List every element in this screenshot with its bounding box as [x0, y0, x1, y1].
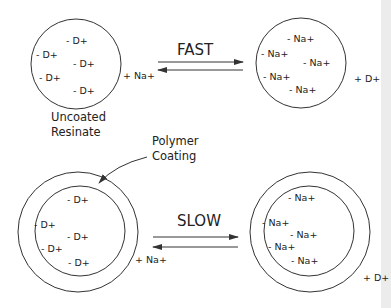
coating-label-polymer: Polymer — [152, 134, 199, 148]
uncoated-resinate-particle: - D+ - D+ - D+ - D+ - D+ — [31, 19, 121, 109]
ion-label: - D+ — [41, 243, 63, 254]
coated-resinate-particle: - D+ - D+ - D+ - D+ - D+ — [18, 172, 138, 292]
ion-label: - D+ — [67, 194, 89, 205]
ion-label: - Na+ — [263, 71, 290, 82]
rate-label-slow: SLOW — [177, 212, 221, 230]
ion-label: - Na+ — [288, 192, 315, 203]
ion-label: - D+ — [34, 219, 56, 230]
rate-label-fast: FAST — [177, 41, 214, 59]
ion-label: - D+ — [73, 58, 95, 69]
ion-label: - Na+ — [261, 48, 288, 59]
ion-label: - D+ — [68, 257, 90, 268]
caption-resinate: Resinate — [51, 125, 101, 139]
ion-label: - Na+ — [287, 33, 314, 44]
exchanged-resinate-particle: - Na+ - Na+ - Na+ - Na+ - Na+ — [256, 18, 346, 108]
ion-label: - Na+ — [268, 241, 295, 252]
external-ion-label: + D+ — [354, 73, 380, 84]
coating-label-coating: Coating — [152, 149, 196, 163]
ion-label: - D+ — [66, 35, 88, 46]
ion-label: - Na+ — [290, 229, 317, 240]
ion-label: - Na+ — [289, 84, 316, 95]
ion-label: - Na+ — [262, 217, 289, 228]
ion-label: - Na+ — [291, 255, 318, 266]
ion-label: - D+ — [36, 49, 58, 60]
external-ion-label: + Na+ — [123, 70, 155, 81]
external-ion-label: + Na+ — [135, 254, 167, 265]
ion-label: - Na+ — [303, 57, 330, 68]
caption-uncoated: Uncoated — [51, 110, 106, 124]
external-ion-label: + D+ — [363, 272, 389, 283]
ion-label: - D+ — [39, 72, 61, 83]
ion-label: - D+ — [73, 85, 95, 96]
ion-label: - D+ — [67, 231, 89, 242]
coated-exchanged-particle: - Na+ - Na+ - Na+ - Na+ - Na+ — [250, 172, 370, 292]
ion-exchange-diagram: - D+ - D+ - D+ - D+ - D+ + Na+ Uncoated … — [0, 0, 391, 308]
